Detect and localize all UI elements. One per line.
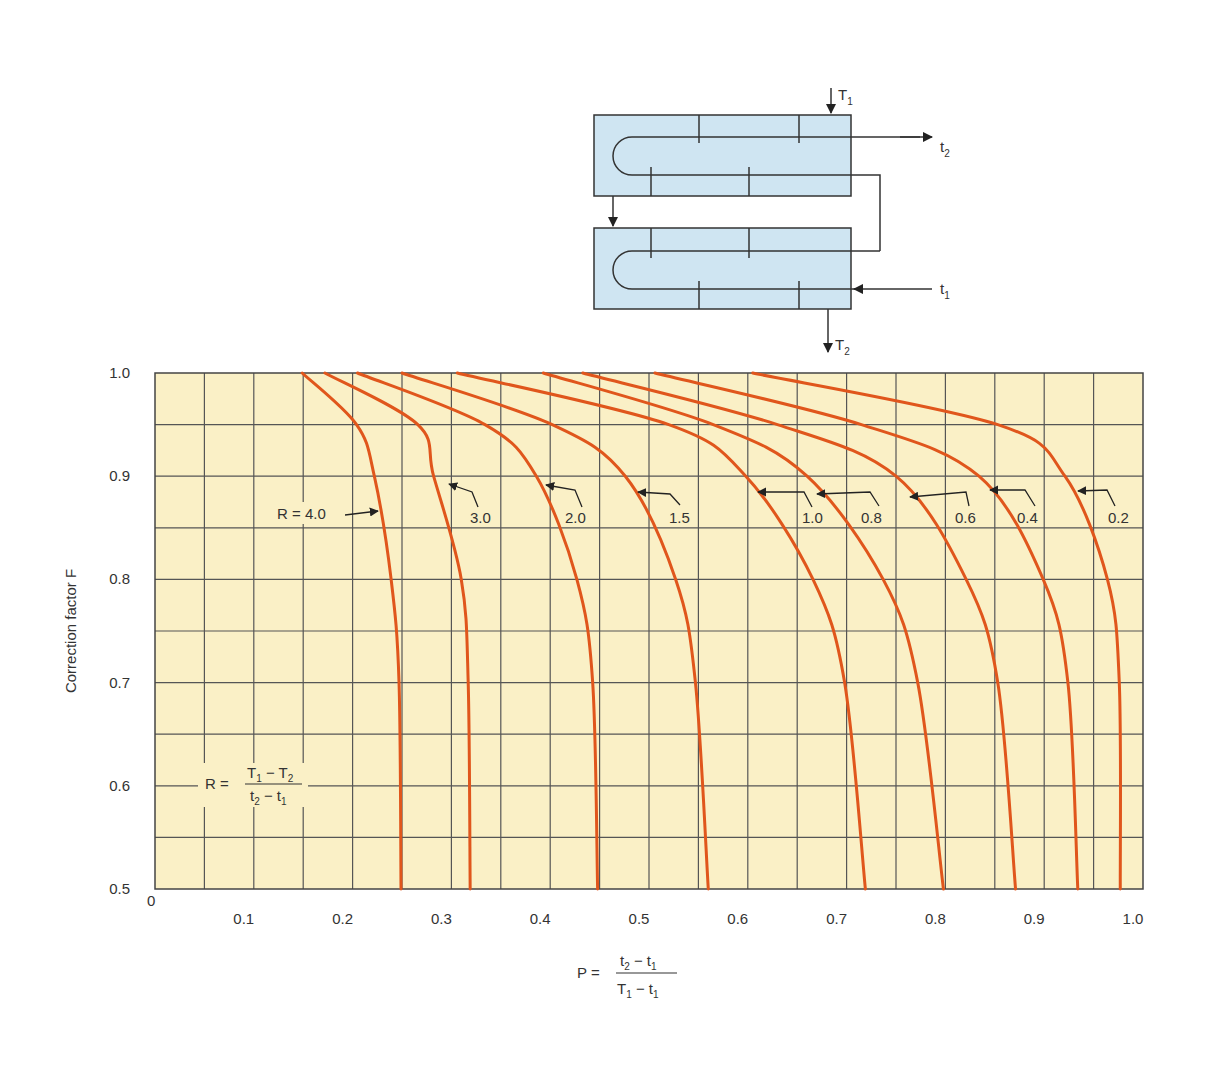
curve-label-r08: 0.8 xyxy=(861,509,882,526)
y-tick-label: 0.9 xyxy=(109,467,130,484)
label-T1: T1 xyxy=(838,86,853,107)
curve-label-r10: 1.0 xyxy=(802,509,823,526)
label-T2: T2 xyxy=(835,336,850,357)
curve-label-r04: 0.4 xyxy=(1017,509,1038,526)
label-t1: t1 xyxy=(940,280,950,301)
label-t2: t2 xyxy=(940,138,950,159)
shell-upper xyxy=(594,115,851,196)
x-tick-label: 0.7 xyxy=(826,910,847,927)
chart-figure: T1 t2 t1 T2 R = 4.0 3.0 2.0 1.5 1.0 0.8 xyxy=(0,0,1222,1067)
x-axis-ticks: 00.10.20.30.40.50.60.70.80.91.0 xyxy=(147,892,1143,927)
x-tick-label: 0.6 xyxy=(727,910,748,927)
svg-text:t2 − t1: t2 − t1 xyxy=(620,952,657,972)
y-axis-label: Correction factor F xyxy=(62,569,79,693)
y-tick-label: 0.8 xyxy=(109,570,130,587)
plot-area: R = 4.0 3.0 2.0 1.5 1.0 0.8 0.6 0.4 0.2 … xyxy=(155,373,1143,889)
y-tick-label: 0.5 xyxy=(109,880,130,897)
curve-label-r4: R = 4.0 xyxy=(277,505,326,522)
shell-lower xyxy=(594,228,851,309)
curve-label-r06: 0.6 xyxy=(955,509,976,526)
y-tick-label: 1.0 xyxy=(109,364,130,381)
svg-text:R =: R = xyxy=(205,775,229,792)
x-tick-label: 0.9 xyxy=(1024,910,1045,927)
curve-label-r15: 1.5 xyxy=(669,509,690,526)
curve-label-r02: 0.2 xyxy=(1108,509,1129,526)
x-axis-label-p-formula: P = t2 − t1 T1 − t1 xyxy=(577,952,677,1000)
curve-label-r2: 2.0 xyxy=(565,509,586,526)
x-tick-label: 0.4 xyxy=(530,910,551,927)
x-tick-label: 0.3 xyxy=(431,910,452,927)
x-tick-label: 1.0 xyxy=(1123,910,1144,927)
x-tick-label: 0.2 xyxy=(332,910,353,927)
y-tick-label: 0.6 xyxy=(109,777,130,794)
x-tick-label: 0.8 xyxy=(925,910,946,927)
svg-text:P =: P = xyxy=(577,964,600,981)
svg-text:T1 − t1: T1 − t1 xyxy=(617,980,659,1000)
y-axis-ticks: 0.50.60.70.80.91.0 xyxy=(109,364,130,897)
y-tick-label: 0.7 xyxy=(109,674,130,691)
grid-lines xyxy=(155,373,1143,889)
x-tick-label: 0.1 xyxy=(233,910,254,927)
x-tick-label: 0.5 xyxy=(629,910,650,927)
x-tick-label: 0 xyxy=(147,892,155,909)
exchanger-diagram: T1 t2 t1 T2 xyxy=(594,86,950,357)
curve-label-r3: 3.0 xyxy=(470,509,491,526)
